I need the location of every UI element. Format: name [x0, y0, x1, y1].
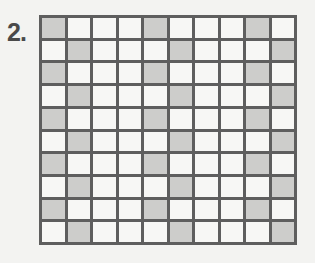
unshaded-cell	[68, 154, 91, 174]
unshaded-cell	[93, 200, 116, 220]
unshaded-cell	[195, 109, 218, 129]
shaded-cell	[144, 109, 167, 129]
shaded-cell	[144, 63, 167, 83]
unshaded-cell	[93, 18, 116, 38]
shaded-cell	[170, 222, 193, 242]
hundred-grid	[39, 15, 297, 245]
unshaded-cell	[195, 18, 218, 38]
unshaded-cell	[170, 109, 193, 129]
unshaded-cell	[68, 63, 91, 83]
unshaded-cell	[119, 86, 142, 106]
unshaded-cell	[119, 177, 142, 197]
unshaded-cell	[119, 41, 142, 61]
unshaded-cell	[195, 177, 218, 197]
unshaded-cell	[144, 41, 167, 61]
unshaded-cell	[119, 18, 142, 38]
shaded-cell	[68, 222, 91, 242]
unshaded-cell	[42, 86, 65, 106]
unshaded-cell	[170, 200, 193, 220]
shaded-cell	[272, 177, 295, 197]
unshaded-cell	[195, 200, 218, 220]
unshaded-cell	[170, 154, 193, 174]
unshaded-cell	[221, 86, 244, 106]
unshaded-cell	[195, 63, 218, 83]
unshaded-cell	[221, 109, 244, 129]
shaded-cell	[246, 63, 269, 83]
unshaded-cell	[170, 18, 193, 38]
shaded-cell	[170, 41, 193, 61]
shaded-cell	[42, 18, 65, 38]
unshaded-cell	[144, 222, 167, 242]
unshaded-cell	[272, 18, 295, 38]
unshaded-cell	[93, 154, 116, 174]
unshaded-cell	[272, 63, 295, 83]
unshaded-cell	[221, 63, 244, 83]
shaded-cell	[68, 177, 91, 197]
unshaded-cell	[42, 177, 65, 197]
unshaded-cell	[221, 154, 244, 174]
unshaded-cell	[119, 222, 142, 242]
shaded-cell	[246, 200, 269, 220]
unshaded-cell	[93, 86, 116, 106]
shaded-cell	[68, 132, 91, 152]
unshaded-cell	[93, 109, 116, 129]
unshaded-cell	[93, 132, 116, 152]
shaded-cell	[42, 154, 65, 174]
unshaded-cell	[272, 154, 295, 174]
shaded-cell	[272, 41, 295, 61]
unshaded-cell	[119, 200, 142, 220]
shaded-cell	[272, 222, 295, 242]
shaded-cell	[68, 41, 91, 61]
unshaded-cell	[93, 41, 116, 61]
unshaded-cell	[144, 132, 167, 152]
unshaded-cell	[119, 154, 142, 174]
shaded-cell	[272, 86, 295, 106]
shaded-cell	[272, 132, 295, 152]
unshaded-cell	[68, 109, 91, 129]
unshaded-cell	[221, 41, 244, 61]
unshaded-cell	[221, 18, 244, 38]
unshaded-cell	[221, 132, 244, 152]
unshaded-cell	[195, 132, 218, 152]
unshaded-cell	[246, 177, 269, 197]
shaded-cell	[170, 132, 193, 152]
unshaded-cell	[246, 132, 269, 152]
unshaded-cell	[272, 200, 295, 220]
shaded-cell	[144, 200, 167, 220]
unshaded-cell	[221, 222, 244, 242]
problem-number: 2.	[7, 18, 26, 47]
unshaded-cell	[42, 41, 65, 61]
unshaded-cell	[195, 154, 218, 174]
shaded-cell	[42, 109, 65, 129]
unshaded-cell	[195, 41, 218, 61]
unshaded-cell	[221, 200, 244, 220]
unshaded-cell	[42, 222, 65, 242]
unshaded-cell	[246, 86, 269, 106]
unshaded-cell	[68, 200, 91, 220]
unshaded-cell	[119, 132, 142, 152]
shaded-cell	[144, 154, 167, 174]
shaded-cell	[246, 18, 269, 38]
unshaded-cell	[170, 63, 193, 83]
shaded-cell	[42, 63, 65, 83]
unshaded-cell	[246, 41, 269, 61]
unshaded-cell	[93, 222, 116, 242]
unshaded-cell	[93, 177, 116, 197]
unshaded-cell	[119, 109, 142, 129]
unshaded-cell	[144, 86, 167, 106]
shaded-cell	[170, 86, 193, 106]
shaded-cell	[170, 177, 193, 197]
shaded-cell	[246, 154, 269, 174]
shaded-cell	[42, 200, 65, 220]
unshaded-cell	[195, 222, 218, 242]
unshaded-cell	[68, 18, 91, 38]
unshaded-cell	[93, 63, 116, 83]
unshaded-cell	[119, 63, 142, 83]
unshaded-cell	[221, 177, 244, 197]
unshaded-cell	[42, 132, 65, 152]
shaded-cell	[144, 18, 167, 38]
shaded-cell	[246, 109, 269, 129]
shaded-cell	[68, 86, 91, 106]
unshaded-cell	[246, 222, 269, 242]
unshaded-cell	[144, 177, 167, 197]
